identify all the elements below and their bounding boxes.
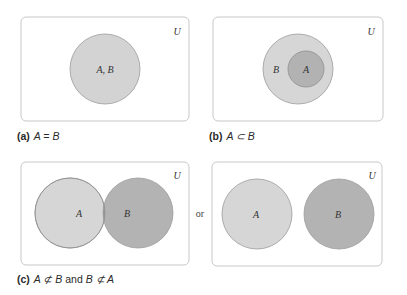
circle-label-b: B [124,208,130,219]
universe-label: U [368,170,376,181]
caption-math: A ⊂ B [226,130,254,142]
caption-c: (c)A ⊄ B and B ⊄ A [17,273,114,285]
caption-math-2: B ⊄ A [86,273,114,285]
caption-tag: (a) [17,130,30,142]
panel-b: B A U [213,17,383,121]
circle-label-b: B [335,209,341,220]
panel-a: A, B U [21,17,189,121]
venn-diagram-figure: A, B U B A U A B U or A B U [0,0,407,295]
caption-a: (a)A = B [17,130,59,142]
caption-math: A = B [34,130,60,142]
universe-label: U [173,170,181,181]
circle-label-a: A [252,209,260,220]
circle-label-a: A [302,64,310,75]
caption-and: and [65,273,83,285]
circle-label-b: B [273,64,279,75]
caption-math-1: A ⊄ B [34,273,62,285]
universe-label: U [367,26,375,37]
panel-c-overlap: A B U [21,162,189,265]
circle-label: A, B [95,64,113,75]
circle-b [103,178,173,248]
caption-tag: (b) [209,130,222,142]
or-connector: or [196,208,205,219]
panel-c-disjoint: A B U [212,162,382,266]
caption-tag: (c) [17,273,30,285]
universe-label: U [173,26,181,37]
caption-b: (b)A ⊂ B [209,130,255,142]
circle-label-a: A [75,208,83,219]
